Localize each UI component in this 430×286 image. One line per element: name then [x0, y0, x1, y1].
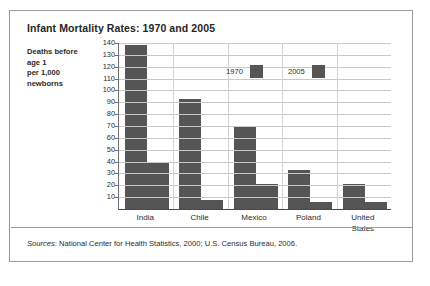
- y-axis-caption: Deaths before age 1 per 1,000 newborns: [27, 47, 99, 89]
- footer-divider: [11, 227, 413, 228]
- y-axis-tickmark: [115, 90, 119, 91]
- y-axis-tick-label: 90: [93, 99, 115, 106]
- gridline-horizontal: [119, 55, 391, 56]
- y-axis-tick-label: 10: [93, 193, 115, 200]
- y-axis-tick-label: 110: [93, 75, 115, 82]
- sources-label: Sources: [27, 239, 55, 248]
- y-axis-tick-label: 60: [93, 134, 115, 141]
- bar-2005: [201, 200, 223, 209]
- y-axis-tickmark: [115, 114, 119, 115]
- y-axis-tickmark: [115, 79, 119, 80]
- bar-2005: [365, 202, 387, 209]
- gridline-horizontal: [119, 102, 391, 103]
- gridline-horizontal: [119, 185, 391, 186]
- bar-1970: [288, 170, 310, 209]
- y-axis-tickmark: [115, 138, 119, 139]
- y-axis-tick-label: 50: [93, 146, 115, 153]
- legend-swatch-1970: [250, 65, 263, 78]
- gridline-horizontal: [119, 79, 391, 80]
- x-axis-tick-label-line: States: [328, 224, 398, 235]
- y-axis-tickmark: [115, 150, 119, 151]
- gridline-horizontal: [119, 43, 391, 44]
- y-axis-tick-labels: 140130120110100908070605040302010: [93, 43, 115, 209]
- y-axis-tickmark: [115, 173, 119, 174]
- chart-legend: 1970 2005: [226, 65, 325, 78]
- gridline-horizontal: [119, 126, 391, 127]
- legend-label-1970: 1970: [226, 67, 243, 76]
- gridline-vertical: [337, 43, 338, 209]
- gridline-horizontal: [119, 173, 391, 174]
- y-axis-tickmark: [115, 55, 119, 56]
- y-axis-tick-label: 100: [93, 87, 115, 94]
- y-axis-tickmark: [115, 126, 119, 127]
- x-axis-tick-label-line: United: [328, 213, 398, 224]
- y-axis-tick-label: 30: [93, 170, 115, 177]
- sources-note: Sources: National Center for Health Stat…: [27, 239, 297, 248]
- y-axis-tick-label: 140: [93, 39, 115, 46]
- y-axis-caption-line-4: newborns: [27, 79, 99, 90]
- page-title: Infant Mortality Rates: 1970 and 2005: [27, 22, 215, 34]
- y-axis-tickmark: [115, 185, 119, 186]
- gridline-horizontal: [119, 114, 391, 115]
- bar-2005: [310, 202, 332, 209]
- legend-label-2005: 2005: [288, 67, 305, 76]
- y-axis-tick-label: 20: [93, 182, 115, 189]
- y-axis-tickmark: [115, 102, 119, 103]
- figure-frame: Infant Mortality Rates: 1970 and 2005 De…: [9, 10, 413, 262]
- gridline-horizontal: [119, 90, 391, 91]
- bar-1970: [179, 99, 201, 209]
- gridline-horizontal: [119, 162, 391, 163]
- y-axis-tickmark: [115, 67, 119, 68]
- y-axis-tickmark: [115, 43, 119, 44]
- y-axis-caption-line-1: Deaths before: [27, 47, 99, 58]
- legend-swatch-2005: [312, 65, 325, 78]
- y-axis-tick-label: 120: [93, 63, 115, 70]
- y-axis-tick-label: 70: [93, 122, 115, 129]
- gridline-horizontal: [119, 150, 391, 151]
- y-axis-tick-label: 80: [93, 110, 115, 117]
- x-axis-tick-label: UnitedStates: [328, 213, 398, 234]
- y-axis-tickmark: [115, 197, 119, 198]
- sources-text: : National Center for Health Statistics,…: [55, 239, 297, 248]
- gridline-horizontal: [119, 197, 391, 198]
- y-axis-caption-line-3: per 1,000: [27, 68, 99, 79]
- y-axis-caption-line-2: age 1: [27, 58, 99, 69]
- y-axis-tickmark: [115, 162, 119, 163]
- y-axis-tick-label: 130: [93, 51, 115, 58]
- gridline-vertical: [173, 43, 174, 209]
- gridline-horizontal: [119, 138, 391, 139]
- y-axis-tick-label: 40: [93, 158, 115, 165]
